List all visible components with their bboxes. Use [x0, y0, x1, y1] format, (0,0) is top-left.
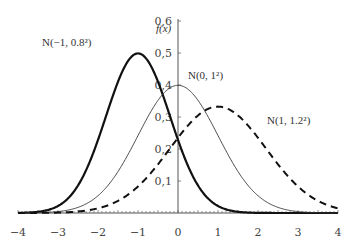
y-axis-label: f(x): [156, 22, 171, 34]
x-tick-label: −4: [10, 226, 26, 239]
series-label-n-minus1: N(−1, 0.8²): [42, 36, 92, 48]
x-tick-label: −1: [130, 226, 146, 239]
x-tick-label: 1: [215, 226, 222, 239]
y-tick-label: 0,1: [155, 175, 173, 188]
x-tick-label: 3: [295, 226, 302, 239]
y-tick-label: 0,5: [155, 47, 173, 60]
x-tick-label: 0: [175, 226, 182, 239]
series-label-n1: N(1, 1.2²): [267, 114, 310, 126]
x-tick-label: −3: [50, 226, 66, 239]
series-label-n0: N(0, 1²): [188, 69, 223, 81]
x-tick-label: −2: [90, 226, 106, 239]
x-tick-label: 4: [335, 226, 342, 239]
x-tick-label: 2: [255, 226, 262, 239]
